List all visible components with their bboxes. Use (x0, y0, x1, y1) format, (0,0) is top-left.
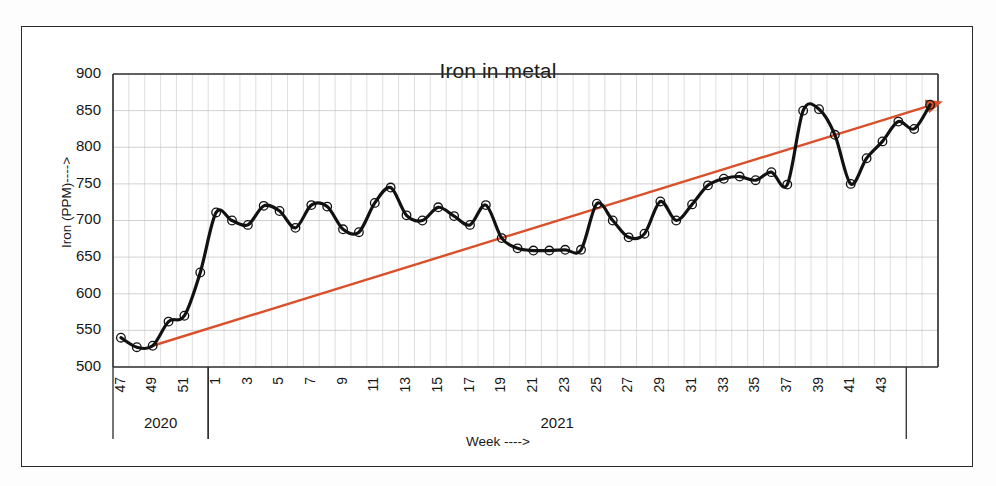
y-tick-label: 500 (76, 357, 101, 374)
x-tick-label: 33 (715, 377, 731, 393)
figure-frame: Iron in metal Iron (PPM)----> Week ---->… (21, 26, 973, 467)
x-tick-label: 15 (429, 377, 445, 393)
x-tick-label: 43 (873, 377, 889, 393)
x-tick-label: 39 (810, 377, 826, 393)
x-tick-label: 1 (207, 377, 223, 385)
x-tick-label: 41 (841, 377, 857, 393)
x-tick-label: 13 (397, 377, 413, 393)
x-tick-label: 21 (524, 377, 540, 393)
y-tick-label: 900 (76, 64, 101, 81)
chart-plot-area: 500550600650700750800850900 474951135791 (22, 27, 974, 468)
x-tick-label: 19 (492, 377, 508, 393)
y-tick-label: 750 (76, 174, 101, 191)
y-axis-tick-labels: 500550600650700750800850900 (76, 64, 101, 374)
x-tick-label: 5 (270, 377, 286, 385)
x-axis-tick-labels: 4749511357911131517192123252729313335373… (112, 377, 890, 393)
x-tick-label: 37 (778, 377, 794, 393)
x-tick-label: 23 (556, 377, 572, 393)
y-tick-label: 850 (76, 101, 101, 118)
x-tick-label: 27 (619, 377, 635, 393)
y-tick-label: 600 (76, 284, 101, 301)
x-tick-label: 35 (746, 377, 762, 393)
y-tick-label: 800 (76, 137, 101, 154)
x-tick-label: 49 (143, 377, 159, 393)
y-tick-label: 700 (76, 210, 101, 227)
x-tick-label: 11 (365, 377, 381, 392)
x-tick-label: 31 (683, 377, 699, 393)
x-tick-label: 29 (651, 377, 667, 393)
x-tick-label: 51 (175, 377, 191, 393)
x-tick-label: 9 (334, 377, 350, 385)
x-tick-label: 3 (239, 377, 255, 385)
x-axis-year-label: 2020 (144, 414, 177, 431)
y-tick-label: 650 (76, 247, 101, 264)
x-tick-label: 47 (112, 377, 128, 393)
x-tick-label: 7 (302, 377, 318, 385)
trendline-arrow (153, 103, 940, 346)
x-tick-label: 25 (588, 377, 604, 393)
page-background: Iron in metal Iron (PPM)----> Week ---->… (0, 0, 996, 486)
x-axis-year-label: 2021 (541, 414, 574, 431)
y-tick-label: 550 (76, 320, 101, 337)
x-tick-label: 17 (461, 377, 477, 393)
